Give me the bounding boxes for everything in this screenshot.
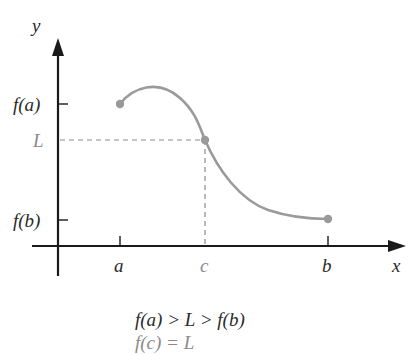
function-curve bbox=[120, 87, 328, 219]
y-tick-label-fa: f(a) bbox=[13, 95, 40, 114]
y-axis-arrow-icon bbox=[52, 38, 64, 56]
point-c bbox=[201, 136, 209, 144]
point-a bbox=[116, 100, 124, 108]
inequality-equation: f(a) > L > f(b) bbox=[135, 310, 245, 329]
y-tick-label-fb: f(b) bbox=[13, 211, 40, 230]
y-axis-label: y bbox=[32, 16, 40, 35]
ivt-diagram bbox=[0, 0, 414, 355]
x-tick-label-b: b bbox=[322, 256, 332, 275]
x-tick-label-c: c bbox=[200, 256, 208, 275]
x-axis-label: x bbox=[392, 256, 400, 275]
equality-equation: f(c) = L bbox=[135, 333, 194, 352]
x-tick-label-a: a bbox=[114, 256, 124, 275]
y-tick-label-L: L bbox=[33, 131, 44, 150]
x-axis-arrow-icon bbox=[388, 240, 406, 252]
point-b bbox=[324, 215, 332, 223]
